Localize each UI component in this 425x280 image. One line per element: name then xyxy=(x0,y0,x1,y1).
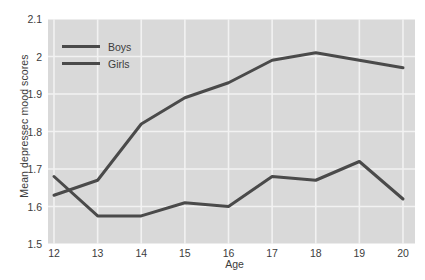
x-tick-label: 12 xyxy=(39,248,69,259)
legend-swatch-boys xyxy=(62,45,100,48)
x-tick-label: 14 xyxy=(126,248,156,259)
y-tick-label: 1.8 xyxy=(8,127,42,138)
y-tick-label: 1.5 xyxy=(8,239,42,250)
y-tick-label: 2.1 xyxy=(8,14,42,25)
x-tick-label: 17 xyxy=(257,248,287,259)
x-tick-label: 20 xyxy=(388,248,418,259)
x-tick-label: 16 xyxy=(214,248,244,259)
y-tick-label: 1.7 xyxy=(8,164,42,175)
chart-figure: Mean depressec mood scores 1.51.61.71.81… xyxy=(0,0,425,280)
x-tick-label: 15 xyxy=(170,248,200,259)
legend-item: Girls xyxy=(62,55,131,72)
legend-swatch-girls xyxy=(62,62,100,65)
x-tick-label: 19 xyxy=(344,248,374,259)
x-tick-label: 13 xyxy=(83,248,113,259)
x-axis-title: Age xyxy=(47,258,422,270)
x-tick-label: 18 xyxy=(301,248,331,259)
legend-label-boys: Boys xyxy=(108,41,131,53)
legend-label-girls: Girls xyxy=(108,58,130,70)
chart-legend: Boys Girls xyxy=(62,38,131,72)
y-tick-label: 2 xyxy=(8,52,42,63)
y-tick-label: 1.6 xyxy=(8,202,42,213)
legend-item: Boys xyxy=(62,38,131,55)
y-tick-label: 1.9 xyxy=(8,89,42,100)
